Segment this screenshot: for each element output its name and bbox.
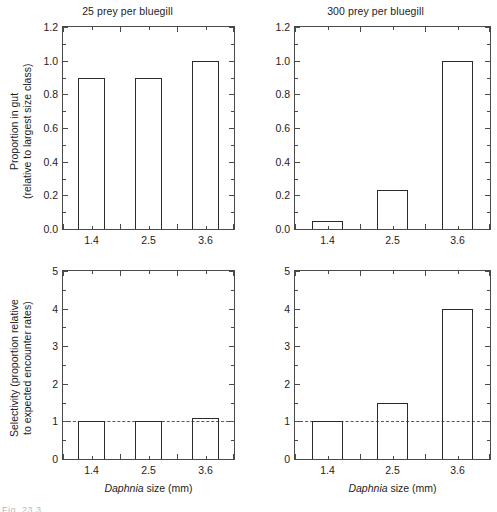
y-tick-right-top-left-4: [229, 94, 234, 95]
panel-title-top-left: 25 prey per bluegill: [20, 5, 235, 17]
y-axis-title-bottom-left: Selectivity (proportion relative to expe…: [8, 270, 34, 466]
plot-area-bottom-right: 0123451.42.53.6: [294, 270, 491, 460]
x-tick-top-bottom-left-2: [177, 271, 178, 276]
y-minor-tick-right-top-right-4: [487, 78, 490, 79]
x-tick-top-bottom-right-1: [360, 271, 361, 276]
x-tick-bottom-left-3: [233, 454, 234, 459]
x-tick-top-top-right-2: [425, 27, 426, 32]
y-minor-tick-bottom-right-2: [295, 365, 298, 366]
y-tick-top-left-4: [63, 94, 68, 95]
y-minor-tick-top-left-1: [63, 179, 66, 180]
y-minor-tick-top-right-2: [295, 145, 298, 146]
y-tick-label-top-right-2: 0.4: [275, 156, 290, 167]
y-tick-right-bottom-right-4: [485, 309, 490, 310]
y-tick-right-bottom-left-2: [229, 384, 234, 385]
y-tick-right-top-left-5: [229, 61, 234, 62]
y-minor-tick-right-bottom-left-2: [231, 365, 234, 366]
y-tick-top-right-1: [295, 195, 300, 196]
y-minor-tick-right-top-left-5: [231, 44, 234, 45]
x-minor-tick-top-top-left-2: [206, 27, 207, 30]
x-axis-title-bottom-left: Daphnia size (mm): [62, 482, 235, 494]
x-tick-label-bottom-left-0: 1.4: [84, 465, 99, 476]
y-minor-tick-right-top-right-2: [487, 145, 490, 146]
x-axis-title-rest: size (mm): [144, 482, 193, 494]
x-minor-tick-top-top-right-1: [393, 27, 394, 30]
y-tick-right-top-right-5: [485, 61, 490, 62]
y-tick-bottom-right-4: [295, 309, 300, 310]
y-tick-right-top-right-0: [485, 229, 490, 230]
y-minor-tick-top-left-2: [63, 145, 66, 146]
y-minor-tick-bottom-left-3: [63, 327, 66, 328]
y-minor-tick-top-left-0: [63, 212, 66, 213]
y-tick-label-bottom-right-0: 0: [284, 454, 290, 465]
x-minor-tick-top-top-left-0: [92, 27, 93, 30]
y-tick-top-left-3: [63, 128, 68, 129]
y-tick-label-top-right-6: 1.2: [275, 22, 290, 33]
y-minor-tick-bottom-right-4: [295, 290, 298, 291]
y-tick-right-bottom-left-0: [229, 459, 234, 460]
y-tick-bottom-left-4: [63, 309, 68, 310]
x-minor-tick-top-bottom-right-2: [458, 271, 459, 274]
x-tick-label-bottom-right-0: 1.4: [320, 465, 335, 476]
y-minor-tick-right-top-left-0: [231, 212, 234, 213]
y-tick-bottom-right-3: [295, 346, 300, 347]
y-tick-label-top-left-5: 1.0: [43, 55, 58, 66]
x-tick-top-top-right-0: [295, 27, 296, 32]
x-tick-top-top-right-3: [489, 27, 490, 32]
y-minor-tick-right-top-right-3: [487, 111, 490, 112]
y-tick-top-right-4: [295, 94, 300, 95]
x-tick-bottom-right-1: [360, 454, 361, 459]
x-tick-top-left-3: [233, 224, 234, 229]
panel-bottom-left: Selectivity (proportion relative to expe…: [0, 256, 248, 512]
panel-top-right: 300 prey per bluegill 0.00.20.40.60.81.0…: [248, 0, 497, 256]
x-tick-top-top-left-0: [63, 27, 64, 32]
x-axis-title-bottom-right: Daphnia size (mm): [294, 482, 491, 494]
bar-top-left-3.6: [192, 61, 219, 229]
y-tick-top-right-2: [295, 162, 300, 163]
y-tick-label-top-left-3: 0.6: [43, 123, 58, 134]
y-minor-tick-right-top-left-3: [231, 111, 234, 112]
x-tick-top-right-2: [425, 224, 426, 229]
y-tick-top-left-5: [63, 61, 68, 62]
x-tick-top-bottom-left-1: [120, 271, 121, 276]
y-minor-tick-top-right-3: [295, 111, 298, 112]
plot-area-top-left: 0.00.20.40.60.81.01.21.42.53.6: [62, 26, 235, 230]
bar-top-right-3.6: [442, 61, 473, 229]
y-minor-tick-right-bottom-right-1: [487, 403, 490, 404]
y-tick-label-top-left-2: 0.4: [43, 156, 58, 167]
y-minor-tick-bottom-right-1: [295, 403, 298, 404]
y-tick-top-right-0: [295, 229, 300, 230]
x-tick-top-top-left-1: [120, 27, 121, 32]
y-tick-right-top-left-3: [229, 128, 234, 129]
y-minor-tick-right-bottom-right-3: [487, 327, 490, 328]
y-tick-top-right-5: [295, 61, 300, 62]
bar-top-left-2.5: [135, 78, 162, 230]
x-tick-label-top-left-1: 2.5: [141, 235, 156, 246]
x-tick-top-bottom-right-2: [425, 271, 426, 276]
x-tick-top-left-0: [63, 224, 64, 229]
x-tick-top-left-1: [120, 224, 121, 229]
y-minor-tick-bottom-right-0: [295, 440, 298, 441]
x-axis-title-genus-2: Daphnia: [348, 482, 387, 494]
y-minor-tick-top-right-5: [295, 44, 298, 45]
x-tick-top-right-0: [295, 224, 296, 229]
y-tick-bottom-left-0: [63, 459, 68, 460]
y-tick-label-bottom-left-4: 4: [52, 303, 58, 314]
y-minor-tick-bottom-right-3: [295, 327, 298, 328]
y-minor-tick-right-bottom-left-4: [231, 290, 234, 291]
y-tick-label-bottom-left-1: 1: [52, 416, 58, 427]
x-tick-bottom-left-2: [177, 454, 178, 459]
panel-title-top-right: 300 prey per bluegill: [268, 5, 483, 17]
y-tick-top-left-2: [63, 162, 68, 163]
x-minor-tick-top-bottom-right-0: [328, 271, 329, 274]
x-minor-tick-top-top-right-0: [328, 27, 329, 30]
x-tick-bottom-right-0: [295, 454, 296, 459]
y-minor-tick-right-bottom-right-4: [487, 290, 490, 291]
y-tick-right-top-right-2: [485, 162, 490, 163]
x-tick-top-top-left-2: [177, 27, 178, 32]
y-minor-tick-top-right-0: [295, 212, 298, 213]
bar-bottom-right-1.4: [312, 421, 343, 459]
y-tick-right-top-right-4: [485, 94, 490, 95]
x-tick-top-top-right-1: [360, 27, 361, 32]
y-minor-tick-right-bottom-left-1: [231, 403, 234, 404]
